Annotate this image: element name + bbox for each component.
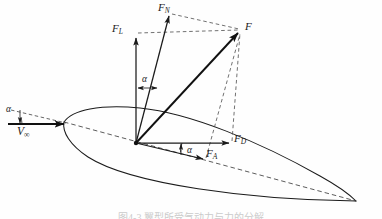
figure-caption: 图4-3 翼型所受气动力与力的分解 [0, 209, 382, 219]
force-decomposition-diagram: F (horizontal-ish top line) --> F --> F … [0, 0, 382, 219]
construction-lift-to-F [138, 30, 239, 33]
axial-force-vector [136, 143, 203, 159]
label-freestream-velocity: V∞ [17, 126, 30, 139]
chord-line [64, 122, 356, 201]
alpha-chord-drag-marker [180, 143, 182, 155]
label-normal-force: FN [158, 2, 170, 15]
label-resultant-force: F [245, 21, 252, 32]
label-alpha-chord-drag: α [187, 146, 192, 156]
label-drag-force: FD [234, 133, 246, 146]
force-origin-point [134, 141, 138, 145]
label-alpha-lift-normal: α [142, 75, 147, 85]
label-lift-force: FL [112, 23, 123, 36]
chord-extension-line [11, 110, 66, 123]
construction-normal-to-F [172, 14, 239, 29]
label-axial-force: FA [206, 148, 217, 161]
construction-drag-to-F [232, 33, 240, 141]
figure-container: F (horizontal-ish top line) --> F --> F … [0, 0, 382, 219]
label-alpha-leading-edge: α [6, 105, 11, 115]
alpha-leading-edge-marker [20, 110, 22, 124]
